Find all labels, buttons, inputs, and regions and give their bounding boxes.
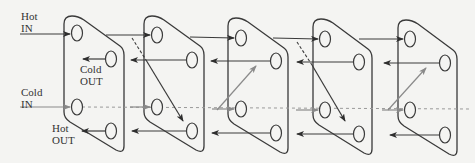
- heat-exchanger-diagram: Hot IN Cold OUT Cold IN Hot OUT: [0, 0, 475, 163]
- port-4-top-left: [320, 31, 331, 47]
- port-5-top-left: [405, 31, 416, 47]
- label-cold-in-line1: Cold: [21, 86, 42, 98]
- label-cold-out-line1: Cold: [80, 63, 103, 75]
- port-1-hot-in: [72, 25, 83, 41]
- port-2-bottom-left: [152, 99, 163, 115]
- port-3-top-left: [236, 30, 247, 46]
- port-3-bottom-left: [236, 101, 247, 117]
- port-2-bottom-right: [187, 123, 198, 139]
- label-hot-out: Hot OUT: [52, 122, 75, 146]
- ports: [72, 25, 451, 143]
- port-4-top-right: [354, 54, 365, 70]
- label-hot-in-line2: IN: [21, 22, 38, 34]
- port-2-top-left: [152, 27, 163, 43]
- port-4-bottom-right: [354, 126, 365, 142]
- label-hot-in: Hot IN: [21, 10, 38, 34]
- hot-feed-4: [273, 38, 318, 39]
- port-5-top-right: [440, 55, 451, 71]
- label-cold-out-line2: OUT: [80, 75, 103, 87]
- label-hot-out-line1: Hot: [52, 122, 75, 134]
- label-hot-out-line2: OUT: [52, 134, 75, 146]
- label-hot-in-line1: Hot: [21, 10, 38, 22]
- port-2-top-right: [187, 52, 198, 68]
- label-cold-out: Cold OUT: [80, 63, 103, 87]
- port-3-bottom-right: [271, 125, 282, 141]
- port-5-bottom-left: [405, 102, 416, 118]
- port-4-bottom-left: [320, 102, 331, 118]
- label-cold-in-line2: IN: [21, 98, 42, 110]
- port-1-cold-out: [106, 51, 117, 67]
- port-3-top-right: [271, 53, 282, 69]
- port-1-hot-out: [106, 123, 117, 139]
- label-cold-in: Cold IN: [21, 86, 42, 110]
- hot-diagonal-2: [146, 60, 183, 121]
- port-1-cold-in: [72, 99, 83, 115]
- port-5-bottom-right: [440, 127, 451, 143]
